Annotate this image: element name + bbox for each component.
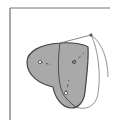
- top-handle-line: [60, 35, 91, 43]
- left-lobe-anchor-icon: [38, 60, 41, 63]
- right-lobe-anchor-icon: [72, 60, 75, 63]
- heart-shape: [27, 43, 88, 108]
- heart-bezier-diagram: [0, 0, 117, 127]
- top-right-handle-icon: [90, 34, 92, 36]
- bottom-anchor-icon: [64, 91, 67, 94]
